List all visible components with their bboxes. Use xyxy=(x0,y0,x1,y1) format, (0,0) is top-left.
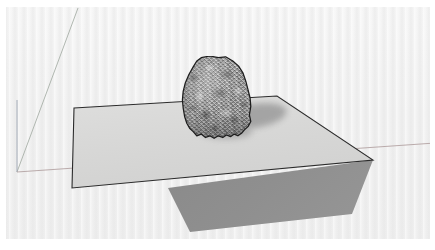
page-margin-top xyxy=(0,0,435,7)
page-margin-bottom xyxy=(0,239,435,250)
green-axis-line xyxy=(17,8,78,172)
rock-outline xyxy=(181,56,253,140)
page-margin-left xyxy=(0,0,6,250)
model-viewport[interactable] xyxy=(0,0,435,250)
page-margin-right xyxy=(430,0,435,250)
rock-boulder[interactable] xyxy=(181,56,253,140)
